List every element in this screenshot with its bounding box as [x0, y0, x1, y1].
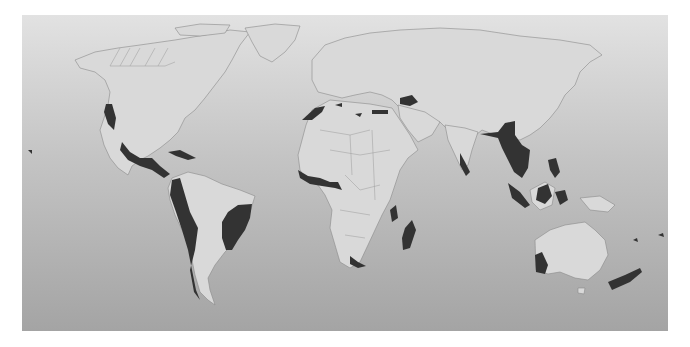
hotspot-eastern-africa	[390, 205, 398, 222]
world-map	[22, 15, 668, 331]
hotspot-new-zealand	[608, 268, 642, 290]
australia	[535, 222, 608, 280]
hotspot-caribbean	[168, 150, 196, 160]
world-map-panel	[22, 15, 668, 331]
hotspot-philippines	[548, 158, 560, 178]
hotspot-madagascar	[402, 220, 416, 250]
north-america	[75, 30, 250, 175]
tasmania	[578, 288, 585, 294]
new-guinea	[580, 196, 615, 212]
hotspot-wallacea	[555, 190, 568, 205]
greenland	[245, 24, 300, 62]
hotspot-new-caledonia	[633, 238, 638, 242]
